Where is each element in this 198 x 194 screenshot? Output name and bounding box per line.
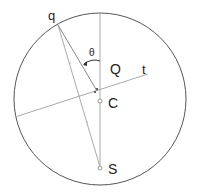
line-t — [15, 74, 148, 117]
point-Q — [96, 88, 98, 90]
theta-arrowhead — [83, 61, 87, 66]
tick-mark — [69, 62, 71, 64]
tick-mark — [78, 95, 80, 97]
point-C — [98, 99, 102, 103]
line-q-to-Q — [58, 25, 97, 91]
label-Q: Q — [110, 61, 121, 77]
label-theta: θ — [89, 47, 95, 58]
label-C: C — [108, 95, 118, 111]
tick-mark — [86, 121, 88, 123]
label-S: S — [108, 161, 117, 177]
point-S — [98, 166, 102, 170]
label-t: t — [142, 62, 146, 77]
label-q: q — [48, 8, 55, 23]
diagram-canvas: q θ Q t C S — [0, 0, 198, 194]
point-intersection — [94, 91, 96, 93]
